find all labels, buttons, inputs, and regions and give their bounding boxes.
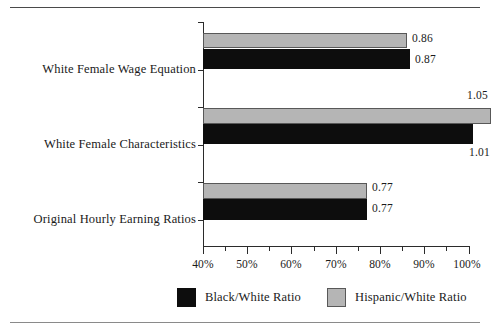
bar-value-group1-black: 1.01	[469, 146, 490, 158]
bottom-divider-rule	[10, 322, 480, 323]
x-axis-label-100: 100%	[453, 258, 481, 270]
bar-group2-hispanic[interactable]	[203, 183, 367, 199]
legend-label-black-white: Black/White Ratio	[205, 290, 301, 305]
x-axis-minor-tick-45	[225, 246, 226, 251]
category-label-0: White Female Wage Equation	[42, 62, 196, 77]
bar-group1-hispanic[interactable]	[203, 108, 491, 124]
plot-area: 0.86 0.87 1.05 1.01 0.77 0.77 40% 50% 60…	[203, 22, 469, 246]
bar-group0-black[interactable]	[203, 49, 410, 69]
category-label-2: Original Hourly Earning Ratios	[34, 212, 196, 227]
bar-value-group0-hispanic: 0.86	[412, 32, 433, 44]
chart-legend: Black/White Ratio Hispanic/White Ratio	[0, 288, 488, 314]
x-axis-label-80: 80%	[369, 258, 391, 270]
x-axis-tick-60	[291, 246, 292, 254]
x-axis-label-60: 60%	[280, 258, 302, 270]
bar-value-group0-black: 0.87	[415, 53, 436, 65]
bar-group0-hispanic[interactable]	[203, 33, 407, 48]
x-axis-label-90: 90%	[413, 258, 435, 270]
category-label-column: White Female Wage Equation White Female …	[0, 22, 196, 246]
y-axis-tick-top	[198, 22, 203, 23]
legend-swatch-gray-icon	[327, 288, 346, 307]
x-axis-tick-80	[380, 246, 381, 254]
bar-group1-black[interactable]	[203, 124, 473, 144]
x-axis-tick-50	[247, 246, 248, 254]
y-axis-tick-category-2	[198, 220, 203, 221]
x-axis-label-70: 70%	[325, 258, 347, 270]
x-axis-label-40: 40%	[192, 258, 214, 270]
legend-item-black-white[interactable]: Black/White Ratio	[177, 288, 301, 307]
x-axis-tick-70	[336, 246, 337, 254]
x-axis-minor-tick-55	[269, 246, 270, 251]
bar-value-group2-black: 0.77	[372, 202, 393, 214]
top-divider-rule	[10, 7, 480, 8]
legend-label-hispanic-white: Hispanic/White Ratio	[355, 290, 467, 305]
category-label-1: White Female Characteristics	[44, 137, 196, 152]
x-axis-tick-40	[203, 246, 204, 254]
y-axis-tick-category-1	[198, 145, 203, 146]
bar-group2-black[interactable]	[203, 199, 367, 220]
legend-swatch-black-icon	[177, 288, 196, 307]
x-axis-minor-tick-85	[402, 246, 403, 251]
bar-value-group1-hispanic: 1.05	[467, 89, 488, 101]
y-axis-tick-category-0	[198, 70, 203, 71]
legend-item-hispanic-white[interactable]: Hispanic/White Ratio	[327, 288, 467, 307]
x-axis-tick-90	[424, 246, 425, 254]
x-axis-minor-tick-75	[358, 246, 359, 251]
x-axis-minor-tick-65	[314, 246, 315, 251]
bar-value-group2-hispanic: 0.77	[372, 181, 393, 193]
x-axis-label-50: 50%	[236, 258, 258, 270]
x-axis-tick-100	[469, 246, 470, 254]
x-axis-minor-tick-95	[446, 246, 447, 251]
